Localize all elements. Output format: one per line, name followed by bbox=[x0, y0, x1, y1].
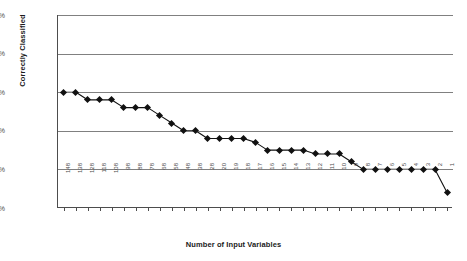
x-tick-mark bbox=[232, 208, 233, 211]
x-tick-mark bbox=[327, 208, 328, 211]
gridline bbox=[58, 15, 453, 16]
x-tick-label: 15 bbox=[281, 163, 287, 199]
x-tick-label: 6 bbox=[389, 163, 395, 199]
x-tick-mark bbox=[363, 208, 364, 211]
x-tick-label: 128 bbox=[89, 163, 95, 199]
x-tick-label: 78 bbox=[149, 163, 155, 199]
x-tick-label: 118 bbox=[101, 163, 107, 199]
x-tick-mark bbox=[76, 208, 77, 211]
x-tick-label: 88 bbox=[137, 163, 143, 199]
x-tick-mark bbox=[423, 208, 424, 211]
x-tick-mark bbox=[220, 208, 221, 211]
y-tick-label: 85% bbox=[0, 127, 5, 134]
x-tick-label: 4 bbox=[413, 163, 419, 199]
y-tick-label: 95% bbox=[0, 50, 5, 57]
x-tick-label: 18 bbox=[245, 163, 251, 199]
x-tick-mark bbox=[411, 208, 412, 211]
gridline bbox=[58, 92, 453, 93]
x-tick-label: 38 bbox=[197, 163, 203, 199]
x-tick-mark bbox=[351, 208, 352, 211]
x-tick-label: 3 bbox=[425, 163, 431, 199]
chart-container: Correctly Classified Number of Input Var… bbox=[0, 0, 467, 261]
x-tick-mark bbox=[88, 208, 89, 211]
x-tick-mark bbox=[315, 208, 316, 211]
x-tick-label: 7 bbox=[377, 163, 383, 199]
y-tick-label: 75% bbox=[0, 205, 5, 212]
x-tick-label: 138 bbox=[77, 163, 83, 199]
x-tick-label: 108 bbox=[113, 163, 119, 199]
x-tick-mark bbox=[256, 208, 257, 211]
x-tick-label: 12 bbox=[317, 163, 323, 199]
x-tick-label: 20 bbox=[221, 163, 227, 199]
gridline bbox=[58, 54, 453, 55]
x-tick-mark bbox=[100, 208, 101, 211]
x-tick-label: 10 bbox=[341, 163, 347, 199]
x-tick-label: 5 bbox=[401, 163, 407, 199]
x-tick-mark bbox=[303, 208, 304, 211]
x-tick-mark bbox=[64, 208, 65, 211]
y-axis-title: Correctly Classified bbox=[18, 0, 27, 116]
gridline bbox=[58, 131, 453, 132]
x-tick-mark bbox=[279, 208, 280, 211]
y-tick-label: 80% bbox=[0, 166, 5, 173]
x-tick-label: 11 bbox=[329, 163, 335, 199]
x-tick-label: 48 bbox=[185, 163, 191, 199]
x-tick-label: 19 bbox=[233, 163, 239, 199]
x-tick-mark bbox=[291, 208, 292, 211]
x-tick-mark bbox=[435, 208, 436, 211]
x-tick-mark bbox=[244, 208, 245, 211]
x-tick-label: 28 bbox=[209, 163, 215, 199]
x-tick-label: 13 bbox=[305, 163, 311, 199]
x-tick-mark bbox=[375, 208, 376, 211]
x-tick-label: 14 bbox=[293, 163, 299, 199]
x-tick-label: 148 bbox=[65, 163, 71, 199]
x-tick-label: 8 bbox=[365, 163, 371, 199]
x-tick-label: 68 bbox=[161, 163, 167, 199]
x-tick-label: 9 bbox=[353, 163, 359, 199]
x-tick-mark bbox=[339, 208, 340, 211]
x-tick-mark bbox=[112, 208, 113, 211]
y-tick-label: 100% bbox=[0, 12, 5, 19]
x-tick-mark bbox=[160, 208, 161, 211]
x-tick-mark bbox=[148, 208, 149, 211]
x-tick-mark bbox=[399, 208, 400, 211]
x-tick-label: 17 bbox=[257, 163, 263, 199]
x-axis-title: Number of Input Variables bbox=[0, 240, 467, 249]
x-tick-mark bbox=[136, 208, 137, 211]
x-tick-mark bbox=[447, 208, 448, 211]
x-tick-mark bbox=[184, 208, 185, 211]
y-tick-label: 90% bbox=[0, 89, 5, 96]
x-tick-label: 16 bbox=[269, 163, 275, 199]
x-tick-label: 1 bbox=[449, 163, 455, 199]
x-tick-mark bbox=[124, 208, 125, 211]
x-tick-label: 98 bbox=[125, 163, 131, 199]
x-tick-label: 58 bbox=[173, 163, 179, 199]
x-tick-mark bbox=[267, 208, 268, 211]
x-tick-mark bbox=[387, 208, 388, 211]
x-tick-mark bbox=[208, 208, 209, 211]
x-tick-mark bbox=[172, 208, 173, 211]
x-tick-mark bbox=[196, 208, 197, 211]
x-tick-label: 2 bbox=[437, 163, 443, 199]
